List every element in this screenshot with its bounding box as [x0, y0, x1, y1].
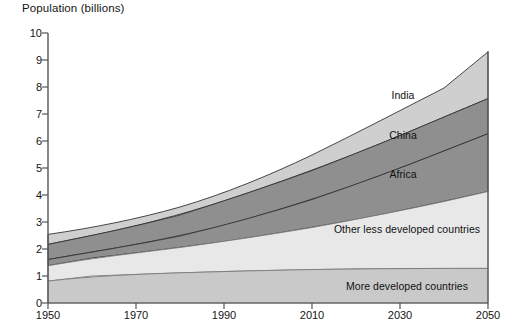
x-tick-1970: 1970 — [124, 309, 148, 321]
x-tick-2010: 2010 — [300, 309, 324, 321]
y-tick-marks — [42, 33, 48, 303]
x-tick-marks — [48, 303, 488, 309]
x-tick-1990: 1990 — [212, 309, 236, 321]
population-projection-chart: Population (billions) 10 9 8 7 6 5 4 3 2… — [0, 0, 527, 332]
x-tick-2050: 2050 — [476, 309, 500, 321]
series-label-china: China — [389, 129, 417, 141]
x-tick-2030: 2030 — [388, 309, 412, 321]
series-label-india: India — [391, 89, 414, 101]
x-tick-1950: 1950 — [36, 309, 60, 321]
series-label-more-developed: More developed countries — [346, 280, 468, 292]
series-label-africa: Africa — [389, 168, 416, 180]
series-label-other-less-developed: Other less developed countries — [334, 223, 480, 235]
